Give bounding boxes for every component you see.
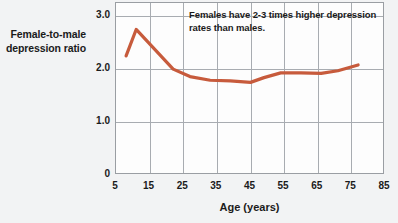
chart-figure: Female-to-male depression ratio 01.02.03… xyxy=(0,0,398,223)
x-tick-label: 45 xyxy=(238,180,262,191)
annotation-ratio-note: Females have 2-3 times higher depression… xyxy=(189,9,389,34)
x-tick-label: 35 xyxy=(204,180,228,191)
series-line xyxy=(126,29,358,82)
x-tick-label: 85 xyxy=(372,180,396,191)
x-axis-title: Age (years) xyxy=(115,201,384,213)
x-tick-label: 15 xyxy=(137,180,161,191)
y-tick-label: 3.0 xyxy=(80,9,110,20)
y-axis-title: Female-to-male depression ratio xyxy=(2,28,86,55)
y-tick-label: 2.0 xyxy=(80,62,110,73)
y-tick-label: 1.0 xyxy=(80,115,110,126)
x-tick-label: 65 xyxy=(305,180,329,191)
x-axis-tick-labels: 51525354555657585 xyxy=(0,180,398,194)
x-tick-label: 25 xyxy=(170,180,194,191)
x-tick-label: 5 xyxy=(103,180,127,191)
x-tick-label: 55 xyxy=(271,180,295,191)
plot-area: Females have 2-3 times higher depression… xyxy=(115,2,384,174)
x-tick-label: 75 xyxy=(338,180,362,191)
y-tick-label: 0 xyxy=(80,168,110,179)
